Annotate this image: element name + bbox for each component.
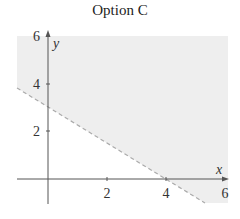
chart-plot: 2 4 6 2 4 6 x y [0,0,240,219]
y-axis-arrow-icon [46,30,51,37]
x-axis-label: x [215,162,223,177]
shaded-region [17,36,228,203]
x-tick-label: 4 [163,186,170,201]
y-axis-label: y [51,36,60,51]
y-tick-label: 2 [33,124,40,139]
y-tick-label: 4 [33,77,40,92]
x-tick-label: 6 [222,186,229,201]
y-tick-label: 6 [33,29,40,44]
x-tick-label: 2 [104,186,111,201]
